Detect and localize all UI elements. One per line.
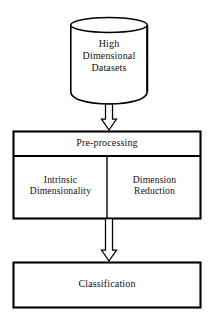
node-label-classification: Classification	[13, 278, 201, 290]
dimension-reduction-line-2: Reduction	[108, 185, 201, 196]
intrinsic-dimensionality-line-1: Intrinsic	[14, 174, 107, 185]
cylinder-label-line-1: High	[64, 38, 154, 50]
flowchart-diagram: High Dimensional Datasets Pre-processing…	[0, 0, 216, 327]
connector-preprocessing-to-classification	[102, 219, 117, 262]
hollow-arrow-icon	[102, 104, 117, 130]
cell-label-dimension-reduction: Dimension Reduction	[108, 174, 201, 197]
connector-datasets-to-preprocessing	[102, 104, 117, 130]
cylinder-top-ellipse	[71, 18, 148, 33]
cylinder-label-line-3: Datasets	[64, 62, 154, 74]
hollow-arrow-icon	[102, 219, 117, 262]
intrinsic-dimensionality-line-2: Dimensionality	[14, 185, 107, 196]
node-label-pre-processing: Pre-processing	[13, 137, 201, 149]
node-label-high-dimensional-datasets: High Dimensional Datasets	[64, 38, 154, 73]
cylinder-label-line-2: Dimensional	[64, 50, 154, 62]
cell-label-intrinsic-dimensionality: Intrinsic Dimensionality	[14, 174, 107, 197]
dimension-reduction-line-1: Dimension	[108, 174, 201, 185]
